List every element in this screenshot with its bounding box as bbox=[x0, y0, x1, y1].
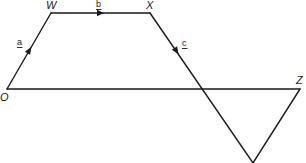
point-label-W: W bbox=[46, 0, 58, 11]
point-label-Z: Z bbox=[295, 74, 304, 86]
vector-label-b: b bbox=[96, 0, 101, 9]
edge-ZY bbox=[253, 89, 300, 163]
arrow-icon-a bbox=[25, 47, 32, 55]
vector-diagram: W X O Z a b c bbox=[0, 0, 306, 163]
vector-label-a: a bbox=[17, 37, 22, 47]
vector-label-c: c bbox=[182, 38, 187, 48]
edge-XY bbox=[150, 13, 253, 163]
arrow-icon-b bbox=[97, 10, 104, 16]
point-label-X: X bbox=[145, 0, 154, 11]
point-label-O: O bbox=[0, 91, 9, 103]
